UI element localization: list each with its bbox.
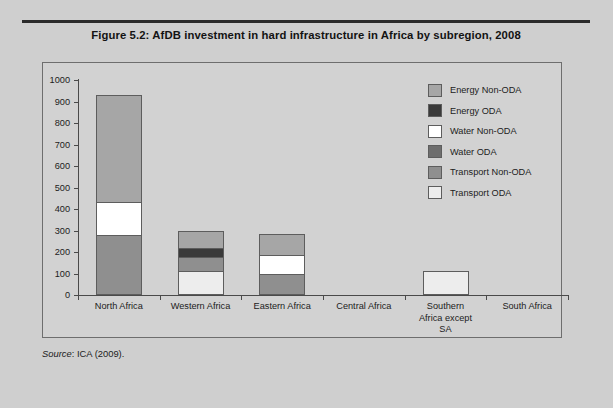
source-note: Source: ICA (2009). bbox=[42, 348, 124, 359]
y-tick-label: 200 bbox=[55, 247, 70, 257]
legend-item[interactable]: Transport Non-ODA bbox=[428, 162, 558, 183]
bar-segment[interactable] bbox=[96, 235, 142, 295]
x-axis-labels: North AfricaWestern AfricaEastern Africa… bbox=[78, 301, 568, 341]
y-tick-label: 800 bbox=[55, 118, 70, 128]
legend-label: Transport Non-ODA bbox=[450, 167, 531, 177]
source-label: Source bbox=[42, 348, 72, 359]
y-tick-label: 700 bbox=[55, 140, 70, 150]
figure-title: Figure 5.2: AfDB investment in hard infr… bbox=[22, 29, 590, 41]
bar-segment[interactable] bbox=[423, 271, 469, 295]
x-axis-label: South Africa bbox=[486, 301, 568, 313]
x-tick-mark bbox=[160, 295, 161, 300]
bar-stack[interactable] bbox=[178, 231, 224, 296]
y-tick-label: 500 bbox=[55, 183, 70, 193]
bar-segment[interactable] bbox=[178, 248, 224, 258]
x-tick-mark bbox=[241, 295, 242, 300]
legend-swatch bbox=[428, 104, 442, 117]
x-axis-label-line: Eastern Africa bbox=[241, 301, 323, 313]
y-tick-mark bbox=[74, 123, 79, 124]
legend-item[interactable]: Transport ODA bbox=[428, 183, 558, 204]
x-axis-label: Eastern Africa bbox=[241, 301, 323, 313]
legend-label: Water ODA bbox=[450, 147, 497, 157]
x-axis-label-line: Western Africa bbox=[160, 301, 242, 313]
x-axis-label: SouthernAfrica exceptSA bbox=[405, 301, 487, 336]
top-rule bbox=[22, 20, 590, 23]
x-axis-label: Central Africa bbox=[323, 301, 405, 313]
bar-stack[interactable] bbox=[423, 271, 469, 295]
x-axis-label-line: SA bbox=[405, 324, 487, 336]
legend-swatch bbox=[428, 145, 442, 158]
legend-item[interactable]: Energy ODA bbox=[428, 101, 558, 122]
x-tick-mark bbox=[486, 295, 487, 300]
bar-segment[interactable] bbox=[259, 255, 305, 273]
chart-legend: Energy Non-ODAEnergy ODAWater Non-ODAWat… bbox=[428, 80, 558, 203]
x-axis-label-line: North Africa bbox=[78, 301, 160, 313]
y-tick-mark bbox=[74, 166, 79, 167]
x-axis-label-line: Africa except bbox=[405, 313, 487, 325]
legend-label: Transport ODA bbox=[450, 188, 511, 198]
y-tick-mark bbox=[74, 145, 79, 146]
y-tick-label: 300 bbox=[55, 226, 70, 236]
legend-swatch bbox=[428, 125, 442, 138]
legend-swatch bbox=[428, 186, 442, 199]
x-axis-label: North Africa bbox=[78, 301, 160, 313]
y-tick-label: 600 bbox=[55, 161, 70, 171]
y-tick-label: 100 bbox=[55, 269, 70, 279]
y-tick-label: 400 bbox=[55, 204, 70, 214]
y-tick-mark bbox=[74, 102, 79, 103]
x-tick-mark bbox=[78, 295, 79, 300]
bar-segment[interactable] bbox=[178, 257, 224, 271]
legend-swatch bbox=[428, 166, 442, 179]
bar-segment[interactable] bbox=[259, 234, 305, 256]
bar-stack[interactable] bbox=[259, 234, 305, 295]
bar-segment[interactable] bbox=[259, 274, 305, 296]
x-tick-mark bbox=[568, 295, 569, 300]
legend-swatch bbox=[428, 84, 442, 97]
legend-item[interactable]: Water ODA bbox=[428, 142, 558, 163]
bar-segment[interactable] bbox=[178, 271, 224, 295]
legend-label: Water Non-ODA bbox=[450, 126, 517, 136]
bar-stack[interactable] bbox=[96, 95, 142, 295]
x-axis-label-line: Southern bbox=[405, 301, 487, 313]
x-axis-label: Western Africa bbox=[160, 301, 242, 313]
source-text: : ICA (2009). bbox=[72, 348, 125, 359]
y-tick-label: 1000 bbox=[50, 75, 70, 85]
y-tick-mark bbox=[74, 188, 79, 189]
x-axis-label-line: Central Africa bbox=[323, 301, 405, 313]
y-tick-label: 0 bbox=[65, 290, 70, 300]
x-tick-mark bbox=[323, 295, 324, 300]
bar-segment[interactable] bbox=[96, 202, 142, 235]
figure-page: Figure 5.2: AfDB investment in hard infr… bbox=[0, 0, 613, 408]
legend-item[interactable]: Energy Non-ODA bbox=[428, 80, 558, 101]
y-tick-mark bbox=[74, 209, 79, 210]
y-tick-mark bbox=[74, 274, 79, 275]
y-tick-label: 900 bbox=[55, 97, 70, 107]
legend-label: Energy Non-ODA bbox=[450, 85, 522, 95]
x-axis-label-line: South Africa bbox=[486, 301, 568, 313]
legend-item[interactable]: Water Non-ODA bbox=[428, 121, 558, 142]
bar-segment[interactable] bbox=[178, 231, 224, 248]
y-tick-mark bbox=[74, 252, 79, 253]
bar-segment[interactable] bbox=[96, 95, 142, 201]
legend-label: Energy ODA bbox=[450, 106, 502, 116]
x-tick-mark bbox=[405, 295, 406, 300]
y-tick-mark bbox=[74, 231, 79, 232]
y-tick-mark bbox=[74, 80, 79, 81]
